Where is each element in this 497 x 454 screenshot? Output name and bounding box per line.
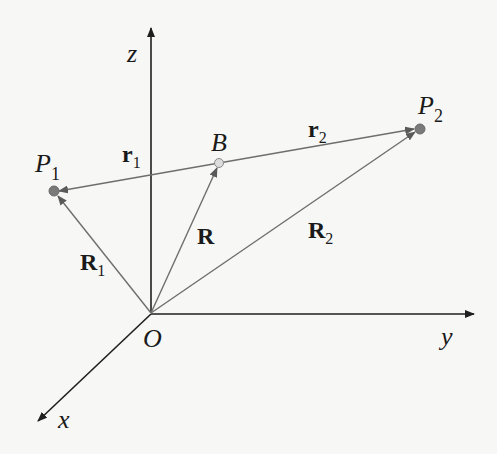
point-B-label: B [211,128,227,157]
y-axis-label: y [438,322,453,351]
vector-R2 [151,132,415,313]
point-P2 [415,124,425,134]
vector-r2-label: r2 [308,116,327,146]
z-axis-label: z [126,39,137,68]
x-axis-label: x [57,405,70,434]
x-axis [38,314,151,421]
point-P1 [49,186,59,196]
origin-label: O [143,324,162,353]
vector-diagram: z y x O P1 B P2 r1 r2 R1 R R2 [0,0,497,454]
point-B [215,159,224,168]
point-P2-label: P2 [417,91,443,126]
vector-r1-label: r1 [122,141,141,171]
vector-R2-label: R2 [308,217,333,247]
vector-R1-label: R1 [80,249,105,279]
vector-R-label: R [197,223,215,249]
point-P1-label: P1 [34,149,60,184]
vector-R1 [58,196,151,313]
